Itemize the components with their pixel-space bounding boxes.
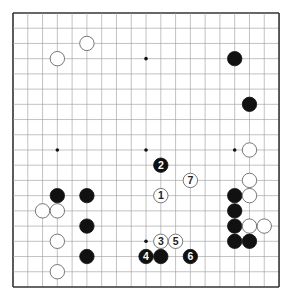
white-stone: 5: [168, 234, 182, 248]
black-stone: 4: [139, 249, 153, 263]
white-stone: [50, 265, 64, 279]
stones-layer: 1234567: [35, 36, 271, 279]
white-stone: [242, 188, 256, 202]
black-stone: [80, 249, 94, 263]
star-point: [144, 240, 148, 244]
white-stone: 1: [154, 188, 168, 202]
black-stone: [228, 188, 242, 202]
move-number-label: 3: [158, 235, 164, 247]
white-stone: [80, 36, 94, 50]
star-point: [233, 148, 237, 152]
move-number-label: 5: [173, 235, 179, 247]
move-number-label: 2: [158, 159, 164, 171]
star-point: [144, 57, 148, 61]
black-stone: [242, 234, 256, 248]
black-stone: [154, 249, 168, 263]
white-stone: [257, 219, 271, 233]
black-stone: 2: [154, 158, 168, 172]
star-point: [56, 148, 60, 152]
black-stone: [242, 97, 256, 111]
black-stone: [228, 204, 242, 218]
star-point: [144, 148, 148, 152]
black-stone: [228, 219, 242, 233]
move-number-label: 6: [187, 250, 193, 262]
move-number-label: 7: [187, 174, 193, 186]
black-stone: [228, 51, 242, 65]
move-number-label: 4: [143, 250, 149, 262]
white-stone: [242, 143, 256, 157]
white-stone: 3: [154, 234, 168, 248]
white-stone: [242, 219, 256, 233]
move-number-label: 1: [158, 189, 164, 201]
white-stone: [50, 234, 64, 248]
white-stone: [35, 204, 49, 218]
black-stone: [50, 188, 64, 202]
white-stone: [242, 173, 256, 187]
white-stone: 7: [183, 173, 197, 187]
go-board: 1234567: [0, 0, 291, 299]
black-stone: [80, 219, 94, 233]
white-stone: [50, 204, 64, 218]
black-stone: 6: [183, 249, 197, 263]
white-stone: [50, 51, 64, 65]
black-stone: [80, 188, 94, 202]
black-stone: [228, 234, 242, 248]
